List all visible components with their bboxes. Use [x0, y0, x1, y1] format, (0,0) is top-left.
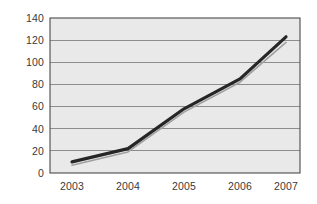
y-tick-label-80: 80 [32, 78, 44, 90]
x-tick-label-2004: 2004 [116, 180, 140, 192]
x-tick-label-2007: 2007 [274, 180, 298, 192]
line-chart: 140 120 100 80 60 40 20 0 2003 2004 2005… [0, 0, 317, 204]
y-tick-label-40: 40 [32, 123, 44, 135]
y-tick-label-20: 20 [32, 145, 44, 157]
y-tick-label-140: 140 [26, 12, 44, 24]
y-tick-label-120: 120 [26, 34, 44, 46]
x-axis-tick-labels: 2003 2004 2005 2006 2007 [60, 180, 298, 192]
y-axis-tick-labels: 140 120 100 80 60 40 20 0 [26, 12, 44, 179]
x-tick-label-2005: 2005 [172, 180, 196, 192]
chart-canvas: 140 120 100 80 60 40 20 0 2003 2004 2005… [0, 0, 317, 204]
x-tick-label-2006: 2006 [228, 180, 252, 192]
y-tick-label-100: 100 [26, 56, 44, 68]
y-tick-label-60: 60 [32, 100, 44, 112]
y-tick-label-0: 0 [38, 167, 44, 179]
x-tick-label-2003: 2003 [60, 180, 84, 192]
plot-area-background [50, 18, 300, 173]
